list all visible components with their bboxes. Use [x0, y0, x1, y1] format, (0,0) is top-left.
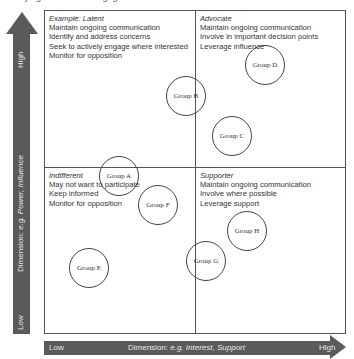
group-d-circle: Group D [245, 45, 285, 85]
group-a-circle: Group A [99, 156, 139, 196]
quadrant-line: Maintain ongoing communication [200, 23, 318, 32]
quadrant-title: Supporter [200, 171, 311, 180]
quadrant-line: Seek to actively engage where interested [49, 42, 188, 51]
group-e-circle: Group E [69, 248, 109, 288]
arrow-up-icon [6, 12, 38, 34]
y-axis-high-label: High [16, 52, 25, 68]
x-axis-title: Dimension: e.g. Interest, Support [128, 343, 245, 352]
horizontal-divider [45, 167, 345, 168]
quadrant-line: Monitor for opposition [49, 199, 140, 208]
y-axis-title: Dimension: e.g. Power, Influence [16, 155, 25, 272]
quadrant-line: Monitor for opposition [49, 51, 188, 60]
vertical-divider [195, 11, 196, 333]
quadrant-supporter: Supporter Maintain ongoing communication… [200, 171, 311, 208]
quadrant-line: Identify and address concerns [49, 32, 188, 41]
x-axis-high-label: High [319, 343, 335, 352]
group-f-circle: Group F [138, 185, 178, 225]
group-g-circle: Group G [186, 241, 226, 281]
quadrant-line: Involve where possible [200, 189, 311, 198]
y-axis-low-label: Low [16, 315, 25, 330]
quadrant-line: Maintain ongoing communication [49, 23, 188, 32]
group-c-circle: Group C [212, 116, 252, 156]
x-axis-arrow: Low Dimension: e.g. Interest, Support Hi… [44, 337, 350, 357]
x-axis-low-label: Low [49, 343, 64, 352]
cropped-header-text: Identifying stakeholder engagement [0, 0, 143, 2]
quadrant-latent: Example: Latent Maintain ongoing communi… [49, 14, 188, 60]
group-h-circle: Group H [227, 211, 267, 251]
quadrant-line: Leverage support [200, 199, 311, 208]
y-axis-arrow: High Dimension: e.g. Power, Influence Lo… [6, 12, 38, 334]
quadrant-line: Maintain ongoing communication [200, 180, 311, 189]
quadrant-title: Advocate [200, 14, 318, 23]
quadrant-line: Involve in important decision points [200, 32, 318, 41]
quadrant-title: Example: Latent [49, 14, 188, 23]
group-b-circle: Group B [166, 76, 206, 116]
